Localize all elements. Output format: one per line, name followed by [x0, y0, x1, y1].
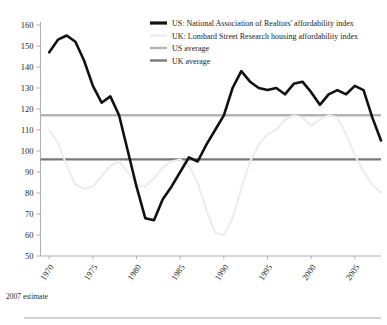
chart-legend: US: National Association of Realtors' af… — [150, 19, 358, 66]
legend-label-2: US average — [172, 44, 210, 53]
y-tick-label: 80 — [25, 188, 34, 198]
y-tick-label: 150 — [21, 41, 34, 51]
y-tick-label: 160 — [21, 20, 34, 30]
x-tick-label: 1985 — [169, 262, 187, 282]
data-series-group — [49, 36, 381, 236]
y-tick-label: 100 — [21, 146, 34, 156]
y-tick-label: 110 — [21, 125, 33, 135]
y-tick-label: 70 — [25, 209, 34, 219]
x-tick-label: 2005 — [344, 262, 362, 282]
y-tick-label: 90 — [25, 167, 34, 177]
x-axis-tick-group: 19701975198019851990199520002005 — [38, 256, 362, 282]
x-tick-label: 1995 — [256, 262, 274, 282]
footnote-label: 2007 estimate — [6, 292, 49, 301]
y-tick-label: 120 — [21, 104, 34, 114]
x-tick-label: 2000 — [300, 262, 318, 282]
x-tick-label: 1970 — [38, 262, 56, 282]
series-line-us — [49, 36, 381, 221]
y-tick-label: 130 — [21, 83, 34, 93]
x-tick-label: 1975 — [82, 262, 100, 282]
series-line-uk — [49, 115, 381, 235]
y-axis-tick-group: 1601501401301201101009080706050 — [21, 20, 41, 261]
affordability-index-line-chart: 1601501401301201101009080706050 19701975… — [0, 0, 387, 325]
y-tick-label: 60 — [25, 230, 34, 240]
legend-label-1: UK: Lombard Street Research housing affo… — [172, 32, 358, 41]
y-tick-label: 50 — [25, 251, 34, 261]
chart-container: 1601501401301201101009080706050 19701975… — [0, 0, 387, 325]
y-tick-label: 140 — [21, 62, 34, 72]
x-tick-label: 1980 — [125, 262, 143, 282]
legend-label-3: UK average — [172, 57, 211, 66]
legend-label-0: US: National Association of Realtors' af… — [172, 19, 354, 28]
x-tick-label: 1990 — [213, 262, 231, 282]
